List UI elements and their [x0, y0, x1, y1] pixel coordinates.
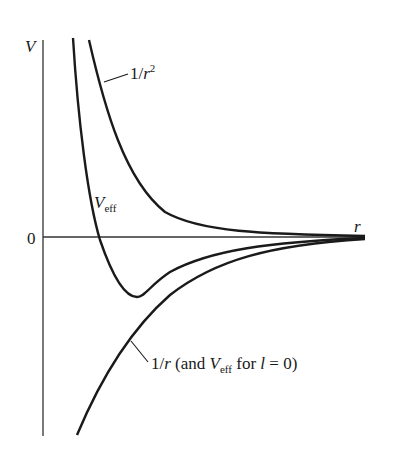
label-var: V	[94, 193, 104, 212]
zero-label: 0	[27, 230, 36, 247]
coulomb-leader	[131, 341, 148, 362]
effective-potential-label: Veff	[94, 194, 116, 214]
r-axis-label: r	[354, 218, 361, 235]
label-text: (and	[171, 354, 210, 373]
effective-potential-curve	[73, 38, 365, 297]
label-sub: eff	[220, 363, 232, 375]
label-var: r	[164, 354, 171, 373]
potential-diagram	[0, 0, 394, 451]
label-text: 1/	[151, 354, 164, 373]
label-text: = 0)	[265, 354, 297, 373]
label-sub: eff	[104, 202, 116, 214]
v-axis-label: V	[25, 38, 35, 55]
label-var: r	[143, 64, 150, 83]
inverse-square-label: 1/r2	[130, 63, 155, 82]
coulomb-label: 1/r (and Veff for l = 0)	[151, 355, 297, 375]
label-var: V	[210, 354, 220, 373]
label-text: for	[232, 354, 260, 373]
inverse-square-leader	[104, 74, 128, 82]
coulomb-curve	[77, 239, 365, 435]
label-text: 1/	[130, 64, 143, 83]
label-sup: 2	[150, 62, 156, 74]
